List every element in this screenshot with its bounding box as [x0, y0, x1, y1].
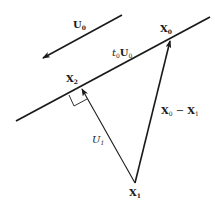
label-u0: U0 [73, 20, 86, 31]
right-angle-marker [69, 95, 87, 106]
label-t0u0: t0U0 [112, 48, 132, 59]
label-x1: X1 [129, 188, 141, 199]
diagram-canvas: U0 t0U0 X0 X2 X0 − X1 U1 X1 [0, 0, 215, 209]
label-x2: X2 [66, 74, 78, 85]
label-x0: X0 [160, 24, 172, 35]
label-u1: U1 [92, 135, 104, 146]
label-x0-minus-x1: X0 − X1 [161, 106, 199, 117]
vector-x1-to-x2 [82, 89, 135, 183]
